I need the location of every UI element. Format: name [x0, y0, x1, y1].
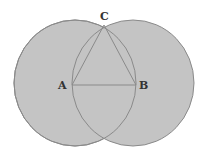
circles-layer — [14, 20, 194, 146]
circle-centered-b — [72, 20, 194, 146]
label-a: A — [57, 79, 67, 92]
label-c: C — [100, 10, 109, 23]
label-b: B — [139, 79, 148, 92]
euclid-construction-diagram: A B C — [0, 0, 208, 158]
